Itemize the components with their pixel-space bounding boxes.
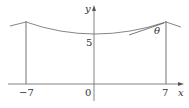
x-axis-label: x <box>178 88 184 98</box>
x-axis-arrow-icon <box>178 82 184 86</box>
origin-label: 0 <box>85 88 91 98</box>
x-tick-neg7: −7 <box>19 88 34 98</box>
y-axis-arrow-icon <box>92 5 96 11</box>
y-tick-5: 5 <box>86 38 92 48</box>
cable-curve <box>26 22 166 34</box>
x-tick-7: 7 <box>162 88 168 98</box>
theta-label: θ <box>154 26 160 36</box>
y-axis-label: y <box>85 4 91 14</box>
cable-extension-right <box>166 22 181 27</box>
cable-extension-left <box>10 22 26 26</box>
catenary-diagram: y x 5 −7 0 7 θ <box>0 0 189 108</box>
